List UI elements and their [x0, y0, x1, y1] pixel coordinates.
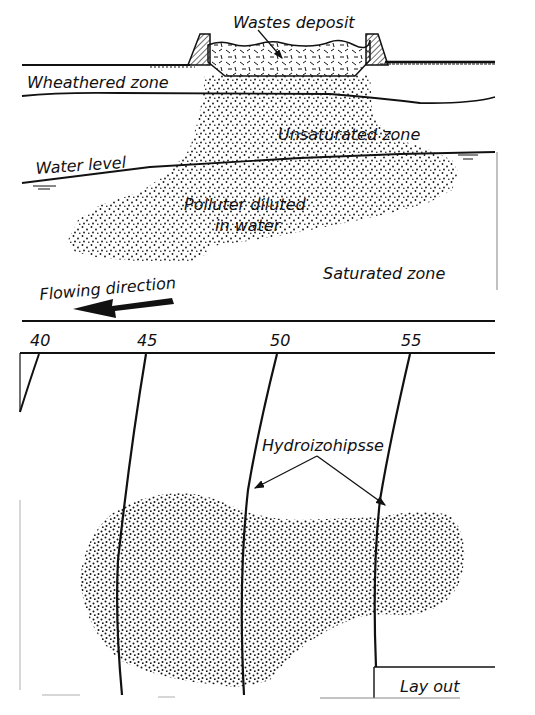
contour-label-40: 40: [30, 331, 50, 350]
plan-pollutant-plume: [80, 493, 464, 686]
label-weathered-zone: Wheathered zone: [27, 73, 169, 92]
label-wastes-deposit: Wastes deposit: [233, 13, 355, 32]
cross-section: Wastes deposit Wheathered zone Unsaturat…: [22, 13, 497, 321]
label-unsaturated-zone: Unsaturated zone: [278, 125, 420, 144]
groundwater-pollution-diagram: Wastes deposit Wheathered zone Unsaturat…: [0, 0, 535, 715]
layout-box: Lay out: [320, 667, 495, 698]
contour-label-45: 45: [137, 331, 157, 350]
right-embankment: [366, 34, 388, 65]
contour-55: [375, 354, 410, 667]
contour-label-55: 55: [401, 331, 421, 350]
label-lay-out: Lay out: [400, 677, 460, 696]
label-water-level: Water level: [35, 153, 127, 178]
flow-direction-arrow: [73, 298, 174, 318]
contour-40: [20, 354, 39, 412]
label-flowing-direction: Flowing direction: [39, 273, 177, 304]
label-saturated-zone: Saturated zone: [323, 264, 445, 283]
contour-label-50: 50: [270, 331, 290, 350]
label-polluter-line2: in water: [215, 216, 282, 235]
label-hydroizohipsse: Hydroizohipsse: [262, 436, 384, 455]
plan-view: 40 45 50 55 Hydroizohipsse Lay out: [20, 331, 495, 698]
waste-deposit: [208, 40, 370, 76]
label-polluter-line1: Polluter diluted: [184, 195, 307, 214]
left-embankment: [188, 34, 210, 65]
